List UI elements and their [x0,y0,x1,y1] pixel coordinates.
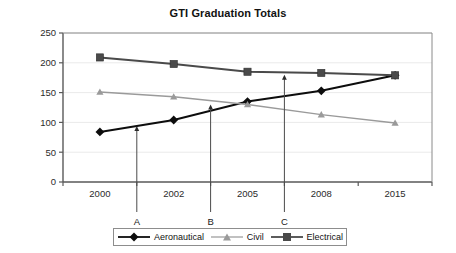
data-point-marker [169,116,178,125]
y-tick-label: 0 [51,176,56,187]
legend-label-aeronautical: Aeronautical [154,232,204,242]
x-tick-label: 2015 [385,188,406,199]
annotation-label-a: A [134,216,141,227]
data-point-marker [318,69,325,76]
x-tick-label: 2000 [89,188,110,199]
y-tick-label: 200 [40,57,56,68]
x-tick-label: 2008 [311,188,332,199]
y-tick-label: 250 [40,27,56,38]
legend-item-electrical: Electrical [269,231,345,243]
series-line-civil [100,92,395,123]
y-tick-label: 150 [40,87,56,98]
data-point-marker [170,60,177,67]
y-axis-tick-labels: 250200150100500 [40,27,56,187]
diamond-marker-icon [117,231,151,243]
data-point-marker [96,128,105,137]
annotation-labels: ABC [134,216,288,227]
legend-label-civil: Civil [247,232,264,242]
x-tick-label: 2002 [163,188,184,199]
y-tick-label: 50 [45,147,56,158]
annotation-arrow-head [282,75,287,80]
annotation-label-b: B [207,216,213,227]
plot-area: 250200150100500 20002002200520082015 ABC [0,0,456,253]
data-point-marker [96,54,103,61]
square-marker-icon [270,231,304,243]
chart-container: GTI Graduation Totals 250200150100500 20… [0,0,456,253]
y-tick-label: 100 [40,117,56,128]
data-point-marker [244,68,251,75]
annotation-arrow-head [208,105,213,110]
legend-label-electrical: Electrical [307,232,344,242]
data-point-marker [392,72,399,79]
chart-legend: Aeronautical Civil Electrical [113,228,347,246]
legend-item-civil: Civil [209,231,265,243]
annotation-label-c: C [281,216,288,227]
x-tick-label: 2005 [237,188,258,199]
triangle-marker-icon [210,231,244,243]
legend-item-aeronautical: Aeronautical [116,231,205,243]
data-series-layer [96,54,400,137]
data-point-marker [317,86,326,95]
axis-lines [63,33,432,182]
